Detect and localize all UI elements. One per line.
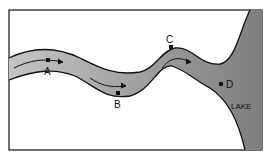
svg-text:B: B — [114, 99, 121, 110]
svg-text:A: A — [44, 66, 51, 77]
river-diagram: A B C D LAKE — [0, 0, 270, 155]
svg-text:D: D — [226, 79, 233, 90]
svg-text:C: C — [166, 34, 173, 45]
lake-label: LAKE — [231, 102, 251, 111]
